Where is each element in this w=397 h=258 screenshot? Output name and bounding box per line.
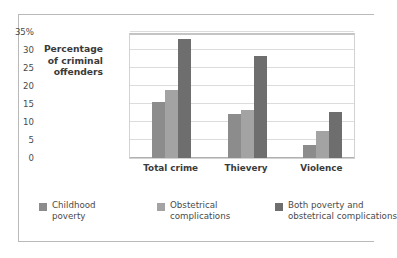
- y-axis-tick-label: 20: [0, 82, 34, 91]
- legend-label: Childhoodpoverty: [52, 200, 96, 222]
- y-axis-title-line-2: of criminal: [25, 55, 103, 67]
- y-axis-tick-label: 0: [0, 154, 34, 163]
- y-axis-title: Percentage of criminal offenders: [25, 43, 103, 78]
- legend-label: Both poverty andobstetrical complication…: [288, 200, 397, 222]
- x-axis-category-label: Violence: [271, 163, 371, 173]
- plot-area: [129, 33, 355, 159]
- bar: [178, 39, 191, 158]
- y-axis-title-line-3: offenders: [25, 66, 103, 78]
- bar: [316, 131, 329, 158]
- y-axis-tick-label: 15: [0, 100, 34, 109]
- legend-label: Obstetricalcomplications: [170, 200, 230, 222]
- bar: [254, 56, 267, 158]
- chart-legend: ChildhoodpovertyObstetricalcomplications…: [27, 201, 371, 235]
- legend-swatch-icon: [39, 203, 47, 211]
- bar: [228, 114, 241, 158]
- y-axis-tick-label: 25: [0, 64, 34, 73]
- bar: [329, 112, 342, 158]
- y-axis-tick-label: 5: [0, 136, 34, 145]
- bar: [241, 110, 254, 158]
- bar: [165, 90, 178, 158]
- legend-swatch-icon: [275, 203, 283, 211]
- bar: [303, 145, 316, 158]
- chart-figure: Percentage of criminal offenders 0510152…: [18, 14, 374, 242]
- legend-swatch-icon: [157, 203, 165, 211]
- gridline: [130, 49, 354, 50]
- bar: [152, 102, 165, 158]
- y-axis-title-line-1: Percentage: [25, 43, 103, 55]
- gridline: [130, 31, 354, 32]
- y-axis-tick-label: 30: [0, 46, 34, 55]
- y-axis-tick-label: 10: [0, 118, 34, 127]
- y-axis-tick-label: 35%: [0, 28, 34, 37]
- gridline: [130, 67, 354, 68]
- gridline: [130, 85, 354, 86]
